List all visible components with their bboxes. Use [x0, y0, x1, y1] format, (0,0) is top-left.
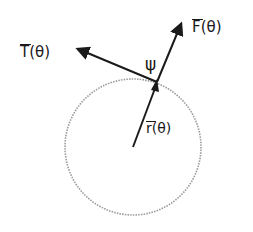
tangent-symbol: T	[20, 43, 29, 61]
tangent-arg: (θ)	[29, 43, 50, 61]
radius-vector	[133, 83, 157, 147]
force-arg: (θ)	[201, 18, 222, 36]
angle-label: ψ	[145, 54, 156, 74]
radius-label: r(θ)	[146, 120, 171, 136]
force-vector	[157, 24, 181, 82]
force-label: F(θ)	[192, 18, 222, 36]
force-symbol: F	[192, 18, 201, 36]
radius-arg: (θ)	[152, 120, 172, 136]
tangent-label: T(θ)	[20, 43, 50, 61]
radius-symbol: r	[146, 120, 152, 136]
